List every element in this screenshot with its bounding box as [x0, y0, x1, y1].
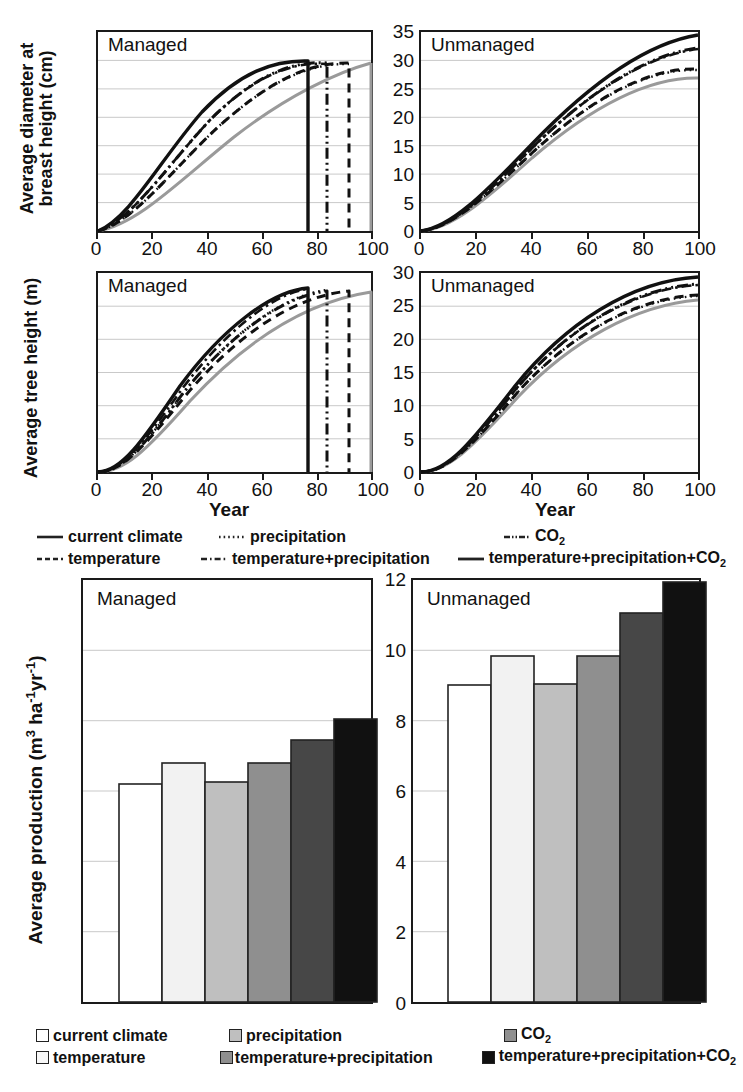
ytick-dbh-unmanaged-25: 25 [374, 79, 414, 101]
ytick-prod-unmanaged-10: 10 [366, 640, 406, 662]
bar-legend-label: temperature+precipitation [235, 1049, 433, 1067]
ytick-dbh-unmanaged-0: 0 [374, 221, 414, 243]
panel-title-height-unmanaged: Unmanaged [431, 275, 535, 297]
line-legend-label: CO2 [535, 527, 565, 547]
xtick-height-unmanaged-80: 80 [632, 479, 653, 501]
bar-legend-label: temperature+precipitation+CO2 [499, 1047, 736, 1067]
ytick-height-unmanaged-5: 5 [374, 429, 414, 451]
ytick-prod-unmanaged-6: 6 [366, 781, 406, 803]
plot-area-dbh-unmanaged [419, 30, 700, 233]
bar-legend-item-current-climate[interactable]: current climate [36, 1027, 229, 1045]
line-legend-row-1: current climate precipitation CO2 [36, 528, 726, 546]
dash-dot-dot-line-icon [503, 532, 531, 542]
ytick-height-unmanaged-30: 30 [374, 262, 414, 284]
bar-legend-item-temperature-precipitation[interactable]: temperature+precipitation [220, 1049, 482, 1067]
ytick-prod-unmanaged-12: 12 [366, 569, 406, 591]
bar-legend-row-1: current climate precipitation CO2 [36, 1026, 736, 1045]
bar-legend-row-2: temperature temperature+precipitation te… [36, 1047, 736, 1068]
panel-title-dbh-unmanaged: Unmanaged [431, 34, 535, 56]
plot-area-prod-unmanaged [411, 578, 701, 1004]
bar-legend-label: current climate [53, 1027, 168, 1045]
xtick-height-unmanaged-20: 20 [465, 479, 486, 501]
xtick-height-unmanaged-100: 100 [684, 479, 716, 501]
swatch-medium-gray-icon [504, 1029, 517, 1042]
swatch-dark-gray-icon [220, 1051, 233, 1064]
figure-root: Average diameter atbreast height (cm) [0, 0, 743, 1092]
bar-legend-item-temperature[interactable]: temperature [36, 1049, 220, 1067]
ytick-prod-unmanaged-0: 0 [366, 993, 406, 1015]
panel-height-unmanaged: Unmanaged 30 25 20 15 10 5 0 0 20 40 60 … [0, 255, 743, 505]
line-legend-item-co2[interactable]: CO2 [503, 527, 565, 547]
swatch-light-gray-icon [229, 1029, 242, 1042]
ytick-dbh-unmanaged-5: 5 [374, 193, 414, 215]
bar-legend-item-co2[interactable]: CO2 [504, 1025, 551, 1045]
line-legend-label: current climate [68, 528, 183, 546]
ytick-dbh-unmanaged-20: 20 [374, 107, 414, 129]
xtick-height-unmanaged-40: 40 [520, 479, 541, 501]
swatch-black-icon [482, 1051, 495, 1064]
ytick-height-unmanaged-25: 25 [374, 295, 414, 317]
ytick-height-unmanaged-15: 15 [374, 362, 414, 384]
bar-legend-label: CO2 [521, 1025, 551, 1045]
line-legend-label: precipitation [250, 528, 346, 546]
dbh-unmanaged-canvas [421, 32, 698, 231]
ytick-dbh-unmanaged-35: 35 [374, 21, 414, 43]
panel-dbh-unmanaged: Unmanaged 35 30 25 20 15 10 5 0 0 20 40 … [0, 0, 743, 255]
ytick-prod-unmanaged-2: 2 [366, 922, 406, 944]
ytick-prod-unmanaged-4: 4 [366, 852, 406, 874]
ytick-height-unmanaged-20: 20 [374, 329, 414, 351]
bar-legend-label: temperature [53, 1049, 145, 1067]
xaxis-title-height-unmanaged: Year [535, 499, 575, 521]
dotted-line-icon [218, 532, 246, 542]
panel-prod-unmanaged: Unmanaged 12 10 8 6 4 2 0 [0, 560, 743, 1020]
bar-legend-item-precipitation[interactable]: precipitation [229, 1027, 504, 1045]
panel-title-prod-unmanaged: Unmanaged [427, 588, 531, 610]
bar-legend: current climate precipitation CO2 temper… [36, 1026, 736, 1068]
xtick-height-unmanaged-60: 60 [576, 479, 597, 501]
bar-legend-label: precipitation [246, 1027, 342, 1045]
swatch-white-icon [36, 1029, 49, 1042]
xtick-height-unmanaged-0: 0 [414, 479, 425, 501]
ytick-height-unmanaged-0: 0 [374, 462, 414, 484]
ytick-height-unmanaged-10: 10 [374, 395, 414, 417]
ytick-prod-unmanaged-8: 8 [366, 711, 406, 733]
prod-unmanaged-canvas [413, 580, 699, 1002]
ytick-dbh-unmanaged-10: 10 [374, 164, 414, 186]
ytick-dbh-unmanaged-15: 15 [374, 136, 414, 158]
bar-legend-item-temperature-precipitation-co2[interactable]: temperature+precipitation+CO2 [482, 1047, 736, 1067]
line-legend-item-precipitation[interactable]: precipitation [218, 528, 503, 546]
plot-area-height-unmanaged [419, 271, 700, 474]
swatch-near-white-icon [36, 1051, 49, 1064]
ytick-dbh-unmanaged-30: 30 [374, 50, 414, 72]
line-legend-item-current-climate[interactable]: current climate [36, 528, 218, 546]
height-unmanaged-canvas [421, 273, 698, 472]
solid-line-icon [36, 532, 64, 542]
